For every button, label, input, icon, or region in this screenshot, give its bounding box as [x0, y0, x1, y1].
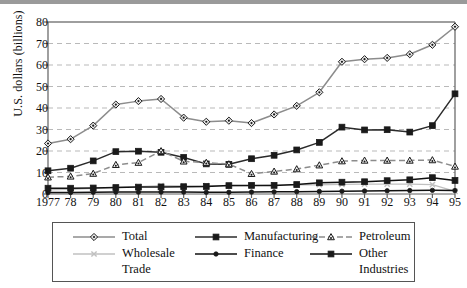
data-point-square — [407, 177, 413, 183]
legend-label: Finance — [244, 246, 284, 261]
data-point-square — [362, 127, 368, 133]
x-axis-ticks: 1977787980818283848586878889909192939495 — [0, 196, 467, 218]
y-tick-label: 80 — [36, 16, 48, 28]
legend-swatch-icon — [308, 247, 354, 261]
data-point-square — [429, 175, 435, 181]
data-point-square — [249, 156, 255, 162]
data-point-diamond — [271, 111, 278, 118]
legend-item: Finance — [193, 245, 318, 262]
data-point-circle — [249, 190, 253, 194]
y-tick-label: 50 — [36, 81, 48, 93]
x-tick-label: 93 — [404, 196, 416, 208]
legend-label-continuation: Industries — [308, 262, 410, 277]
x-tick-label: 95 — [449, 196, 461, 208]
data-point-diamond — [225, 117, 232, 124]
data-point-square — [213, 234, 219, 240]
x-tick-label: 82 — [155, 196, 167, 208]
data-point-circle — [295, 189, 299, 193]
legend-swatch-icon — [193, 230, 239, 244]
data-point-circle — [159, 190, 163, 194]
legend-column-1: TotalWholesaleTrade — [71, 228, 175, 277]
data-point-circle — [181, 190, 185, 194]
legend-swatch-icon — [308, 230, 354, 244]
data-point-circle — [204, 190, 208, 194]
data-point-square — [249, 183, 255, 189]
data-point-circle — [385, 189, 389, 193]
y-tick-label: 70 — [36, 38, 48, 50]
data-point-square — [68, 185, 74, 191]
chart-figure: U.S. dollars (billions) 0102030405060708… — [0, 4, 467, 288]
data-point-square — [90, 158, 96, 164]
legend-item: Total — [71, 228, 175, 245]
series-petroleum — [45, 148, 459, 180]
data-point-square — [158, 184, 164, 190]
series-total — [44, 23, 458, 147]
legend-label-continuation: Trade — [71, 262, 175, 277]
data-point-square — [136, 184, 142, 190]
data-point-square — [407, 129, 413, 135]
data-point-square — [226, 183, 232, 189]
data-point-square — [294, 147, 300, 153]
legend-item: Wholesale — [71, 245, 175, 262]
plot-area: U.S. dollars (billions) 0102030405060708… — [0, 4, 467, 204]
x-tick-label: 81 — [132, 196, 144, 208]
data-point-diamond — [361, 56, 368, 63]
data-point-square — [294, 182, 300, 188]
data-point-diamond — [248, 119, 255, 126]
data-point-diamond — [90, 233, 97, 240]
legend-label: Petroleum — [359, 229, 410, 244]
x-tick-label: 83 — [178, 196, 190, 208]
y-tick-label: 30 — [36, 124, 48, 136]
legend-label: Wholesale — [122, 246, 175, 261]
data-point-diamond — [67, 136, 74, 143]
x-tick-label: 84 — [200, 196, 212, 208]
data-point-circle — [362, 189, 366, 193]
x-tick-label: 89 — [313, 196, 325, 208]
data-point-square — [384, 127, 390, 133]
data-point-square — [362, 179, 368, 185]
data-point-square — [452, 91, 458, 97]
data-point-square — [203, 184, 209, 190]
data-point-triangle — [452, 163, 459, 169]
y-tick-label: 20 — [36, 145, 48, 157]
data-point-circle — [340, 189, 344, 193]
y-tick-label: 10 — [36, 167, 48, 179]
y-tick-label: 40 — [36, 102, 48, 114]
data-point-square — [113, 185, 119, 191]
legend-label: Total — [122, 229, 148, 244]
legend-swatch-icon — [193, 247, 239, 261]
data-point-circle — [136, 190, 140, 194]
data-point-square — [429, 123, 435, 129]
data-point-square — [328, 251, 334, 257]
data-point-diamond — [135, 98, 142, 105]
x-tick-label: 88 — [291, 196, 303, 208]
x-tick-label: 1977 — [36, 196, 60, 208]
data-point-diamond — [384, 54, 391, 61]
legend-item: Other — [308, 245, 410, 262]
y-tick-label: 60 — [36, 59, 48, 71]
x-tick-label: 80 — [110, 196, 122, 208]
data-point-square — [90, 185, 96, 191]
legend-swatch-icon — [71, 247, 117, 261]
plot-svg — [0, 4, 467, 204]
x-tick-label: 85 — [223, 196, 235, 208]
series-other-industries — [45, 175, 458, 191]
data-point-square — [271, 152, 277, 158]
data-point-square — [316, 140, 322, 146]
data-point-square — [384, 178, 390, 184]
x-tick-label: 87 — [268, 196, 280, 208]
legend-item: Manufacturing — [193, 228, 318, 245]
data-point-diamond — [203, 118, 210, 125]
data-point-circle — [453, 188, 457, 192]
legend-column-3: PetroleumOtherIndustries — [308, 228, 410, 277]
legend-column-2: ManufacturingFinance — [193, 228, 318, 262]
legend-label: Other — [359, 246, 387, 261]
data-point-square — [339, 179, 345, 185]
y-axis-ticks: 01020304050607080 — [22, 4, 48, 204]
legend-swatch-icon — [71, 230, 117, 244]
chart-legend: TotalWholesaleTrade ManufacturingFinance… — [52, 222, 415, 282]
data-point-square — [452, 178, 458, 184]
data-point-circle — [408, 188, 412, 192]
data-point-circle — [317, 189, 321, 193]
data-point-circle — [272, 190, 276, 194]
